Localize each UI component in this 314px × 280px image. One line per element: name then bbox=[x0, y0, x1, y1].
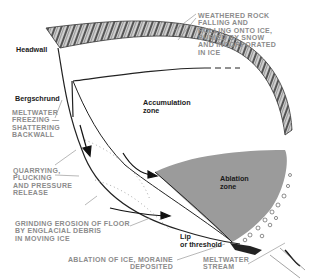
accumulation-zone-label: Accumulation zone bbox=[143, 99, 191, 114]
headwall-label: Headwall bbox=[16, 46, 47, 54]
ablation-zone-label: Ablation zone bbox=[220, 175, 249, 190]
meltwater-freezing-callout: MELTWATER FREEZING — SHATTERING BACKWALL bbox=[12, 109, 60, 138]
meltwater-stream-callout: MELTWATER STREAM bbox=[203, 256, 249, 271]
grinding-callout: GRINDING EROSION OF FLOOR BY ENGLACIAL D… bbox=[15, 220, 130, 242]
ablation-moraine-callout: ABLATION OF ICE, MORAINE DEPOSITED bbox=[68, 256, 173, 271]
lip-moraine bbox=[230, 243, 262, 255]
glacial-cirque-diagram: Headwall Bergschrund Accumulation zone A… bbox=[0, 0, 314, 280]
quarrying-callout: QUARRYING, PLUCKING AND PRESSURE RELEASE bbox=[13, 167, 72, 196]
lip-label: Lip or threshold bbox=[180, 233, 222, 248]
bergschrund-label: Bergschrund bbox=[15, 95, 60, 103]
weathered-rock-callout: WEATHERED ROCK FALLING AND ROLLING ONTO … bbox=[198, 12, 276, 56]
